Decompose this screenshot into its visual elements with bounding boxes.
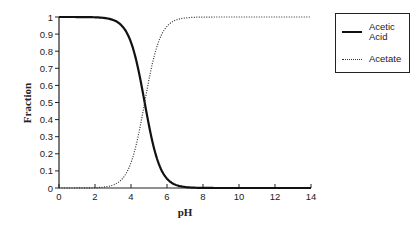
legend: Acetic Acid Acetate bbox=[335, 13, 410, 73]
x-tick-label: 10 bbox=[234, 191, 245, 202]
legend-item-acetate: Acetate bbox=[342, 54, 401, 64]
x-tick-label: 14 bbox=[306, 191, 317, 202]
legend-label: Acetate bbox=[369, 54, 401, 64]
x-tick-label: 2 bbox=[92, 191, 97, 202]
dotted-line-swatch-icon bbox=[342, 59, 362, 60]
y-tick-label: 0.1 bbox=[40, 165, 53, 176]
x-tick-label: 0 bbox=[56, 191, 61, 202]
y-tick-label: 0.6 bbox=[40, 80, 53, 91]
x-tick-label: 12 bbox=[270, 191, 281, 202]
y-axis-ticks: 00.10.20.30.40.50.60.70.80.91 bbox=[40, 12, 59, 194]
solid-line-swatch-icon bbox=[342, 31, 362, 33]
legend-label-line2: Acid bbox=[369, 31, 387, 42]
y-tick-label: 0.4 bbox=[40, 114, 53, 125]
y-axis-label: Fraction bbox=[21, 83, 33, 123]
acetic-acid-line bbox=[59, 17, 311, 188]
x-axis-label: pH bbox=[178, 206, 193, 218]
y-tick-label: 0.3 bbox=[40, 131, 53, 142]
y-tick-label: 0.2 bbox=[40, 148, 53, 159]
y-tick-label: 1 bbox=[48, 12, 53, 23]
x-tick-label: 6 bbox=[164, 191, 169, 202]
x-tick-label: 4 bbox=[128, 191, 133, 202]
y-tick-label: 0.5 bbox=[40, 97, 53, 108]
y-tick-label: 0.7 bbox=[40, 63, 53, 74]
y-tick-label: 0.9 bbox=[40, 29, 53, 40]
legend-item-acetic-acid: Acetic Acid bbox=[342, 22, 395, 42]
y-tick-label: 0.8 bbox=[40, 46, 53, 57]
acetate-line bbox=[59, 17, 311, 188]
y-tick-label: 0 bbox=[48, 183, 53, 194]
legend-label: Acetic Acid bbox=[369, 22, 395, 42]
x-tick-label: 8 bbox=[200, 191, 205, 202]
